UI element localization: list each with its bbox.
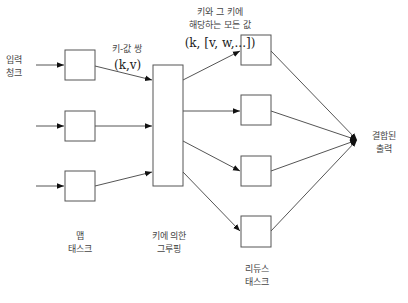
all-values-line1: 키와 그 키에	[170, 6, 270, 19]
group-reduce-arrow-4	[183, 172, 240, 231]
reduce-output-arrow-4	[271, 140, 357, 231]
map-group-arrow-3	[95, 172, 152, 186]
map-task-line2: 태스크	[68, 243, 92, 256]
reduce-task-label: 리듀스 태스크	[243, 263, 271, 289]
combined-output-line1: 결합된	[372, 130, 396, 143]
map-box-2	[65, 111, 95, 141]
combined-output-line2: 출력	[372, 143, 396, 156]
input-chunk-label: 입력 청크	[6, 54, 22, 80]
map-task-label: 맵 태스크	[68, 230, 92, 256]
map-task-line1: 맵	[68, 230, 92, 243]
combined-output-label: 결합된 출력	[372, 130, 396, 156]
all-values-notation: (k, [v, w,...])	[172, 36, 268, 50]
reduce-task-line1: 리듀스	[243, 263, 271, 276]
group-reduce-arrow-1	[183, 51, 240, 80]
input-chunk-line1: 입력	[6, 54, 22, 67]
kv-pair-label: 키-값 쌍	[112, 43, 142, 56]
grouping-label: 키에 의한 그루핑	[148, 230, 190, 256]
kv-notation: (k,v)	[114, 58, 141, 72]
grouping-box	[153, 65, 183, 186]
reduce-output-arrow-2	[271, 111, 357, 140]
reduce-output-arrow-3	[271, 140, 357, 171]
reduce-box-2	[241, 95, 271, 125]
map-box-1	[65, 50, 95, 80]
all-values-label: 키와 그 키에 해당하는 모든 값	[170, 6, 270, 32]
all-values-line2: 해당하는 모든 값	[170, 19, 270, 32]
group-reduce-arrow-3	[183, 141, 240, 171]
reduce-box-4	[241, 216, 271, 247]
grouping-line2: 그루핑	[148, 243, 190, 256]
grouping-line1: 키에 의한	[148, 230, 190, 243]
input-chunk-line2: 청크	[6, 67, 22, 80]
reduce-output-arrow-1	[271, 51, 357, 140]
reduce-box-3	[241, 156, 271, 186]
reduce-task-line2: 태스크	[243, 276, 271, 289]
map-box-3	[65, 171, 95, 201]
